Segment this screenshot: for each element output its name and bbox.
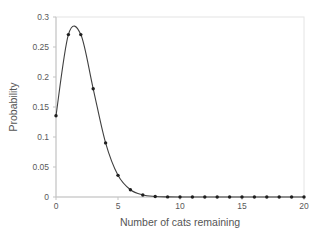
y-tick-label: 0.3 xyxy=(37,12,49,22)
data-point-marker xyxy=(154,195,157,198)
chart-plot: Probability Number of cats remaining 00.… xyxy=(0,0,326,244)
y-axis-title: Probability xyxy=(7,82,19,132)
data-point-marker xyxy=(116,174,119,177)
data-point-marker xyxy=(178,195,181,198)
x-tick-label: 0 xyxy=(54,201,59,211)
data-point-marker xyxy=(54,114,57,117)
data-point-marker xyxy=(166,195,169,198)
data-point-marker xyxy=(265,195,268,198)
chart-figure: Probability Number of cats remaining 00.… xyxy=(0,0,326,244)
x-tick-label: 20 xyxy=(299,201,309,211)
plot-border xyxy=(56,17,304,197)
x-tick-label: 5 xyxy=(116,201,121,211)
data-point-marker xyxy=(191,195,194,198)
y-tick-label: 0.15 xyxy=(32,102,49,112)
data-point-marker xyxy=(278,195,281,198)
y-tick-label: 0.2 xyxy=(37,72,49,82)
y-tick-label: 0.05 xyxy=(32,162,49,172)
data-point-marker xyxy=(302,195,305,198)
data-point-marker xyxy=(203,195,206,198)
series-line xyxy=(56,26,304,197)
data-point-marker xyxy=(253,195,256,198)
data-point-marker xyxy=(104,141,107,144)
data-point-marker xyxy=(228,195,231,198)
data-point-marker xyxy=(129,188,132,191)
y-tick-label: 0 xyxy=(44,192,49,202)
data-point-marker xyxy=(240,195,243,198)
data-point-marker xyxy=(79,33,82,36)
y-tick-label: 0.25 xyxy=(32,42,49,52)
x-tick-label: 15 xyxy=(237,201,247,211)
data-point-marker xyxy=(141,193,144,196)
data-point-marker xyxy=(216,195,219,198)
x-axis-title: Number of cats remaining xyxy=(120,216,240,228)
data-point-marker xyxy=(290,195,293,198)
data-point-marker xyxy=(67,33,70,36)
data-point-marker xyxy=(92,87,95,90)
y-tick-label: 0.1 xyxy=(37,132,49,142)
x-tick-label: 10 xyxy=(175,201,185,211)
